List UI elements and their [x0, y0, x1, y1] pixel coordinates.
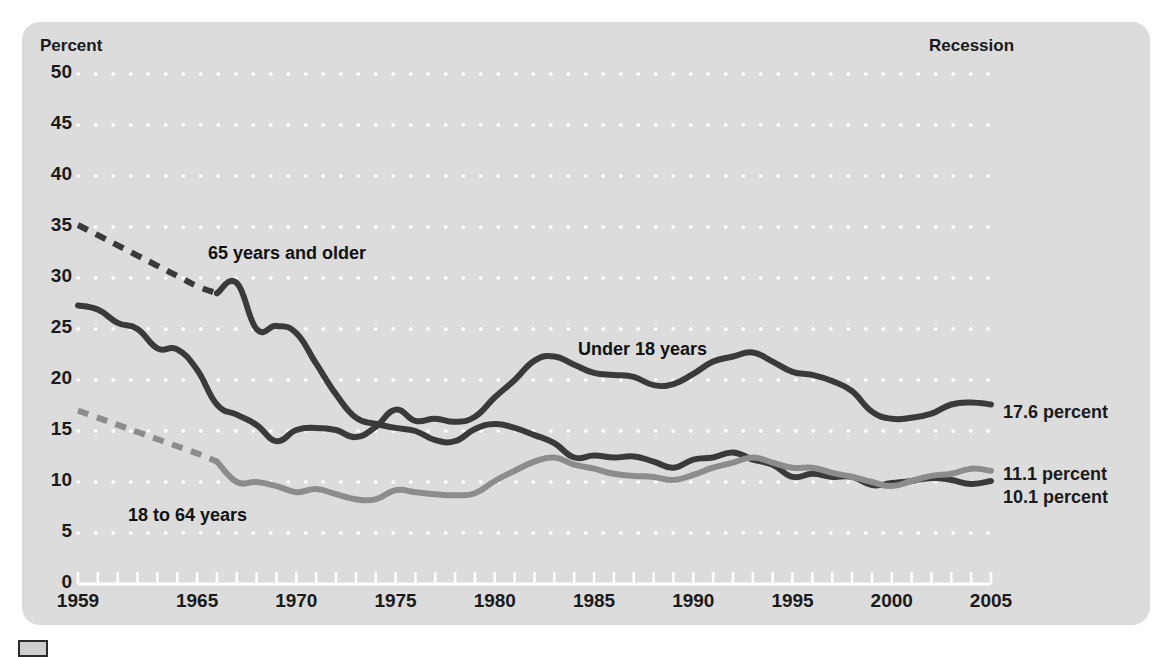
y-tick-label: 10 — [30, 469, 72, 491]
y-tick-label: 40 — [30, 163, 72, 185]
x-tick-label: 1990 — [658, 590, 728, 612]
series-dashed-segment — [78, 225, 217, 293]
x-tick-label: 1975 — [361, 590, 431, 612]
x-tick-label: 1995 — [758, 590, 828, 612]
recession-legend-label: Recession — [929, 36, 1014, 56]
series-label-18-to-64: 18 to 64 years — [128, 505, 247, 526]
x-tick-label: 2000 — [857, 590, 927, 612]
y-tick-label: 20 — [30, 367, 72, 389]
y-tick-label: 15 — [30, 418, 72, 440]
x-tick-label: 2005 — [956, 590, 1026, 612]
legend-swatch-icon — [18, 640, 48, 657]
data-series-lines — [78, 225, 991, 501]
x-tick-label: 1965 — [162, 590, 232, 612]
x-axis-minor-ticks — [78, 572, 991, 584]
x-tick-label: 1970 — [261, 590, 331, 612]
series-label-65-and-older: 65 years and older — [208, 243, 366, 264]
y-tick-label: 35 — [30, 214, 72, 236]
y-tick-label: 5 — [30, 520, 72, 542]
series-line — [217, 281, 991, 486]
y-tick-label: 45 — [30, 112, 72, 134]
end-value-under-18: 17.6 percent — [1003, 402, 1108, 423]
series-dashed-segment — [78, 411, 217, 462]
series-label-under-18: Under 18 years — [578, 339, 707, 360]
y-tick-label: 50 — [30, 61, 72, 83]
series-line — [78, 306, 991, 442]
end-value-65-and-older: 10.1 percent — [1003, 487, 1108, 508]
series-line — [217, 457, 991, 500]
y-axis-title: Percent — [40, 36, 102, 56]
x-tick-label: 1985 — [559, 590, 629, 612]
x-tick-label: 1980 — [460, 590, 530, 612]
y-tick-label: 30 — [30, 265, 72, 287]
y-tick-label: 25 — [30, 316, 72, 338]
end-value-18-to-64: 11.1 percent — [1003, 464, 1107, 485]
x-tick-label: 1959 — [43, 590, 113, 612]
